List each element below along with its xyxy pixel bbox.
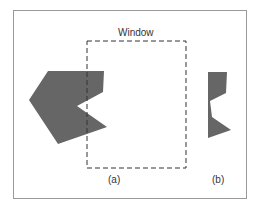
polygon-a	[29, 71, 107, 144]
panel-a-label: (a)	[108, 175, 120, 185]
polygon-b	[208, 72, 231, 138]
window-label: Window	[118, 28, 154, 38]
window-rectangle	[87, 41, 186, 168]
panel-b-label: (b)	[212, 175, 224, 185]
